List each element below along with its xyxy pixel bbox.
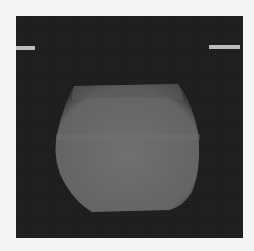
- scanned-object: [52, 82, 204, 214]
- overlay-label-left: [16, 46, 35, 50]
- overlay-label-right: [209, 45, 240, 49]
- object-body: [55, 84, 199, 212]
- object-band: [56, 134, 200, 140]
